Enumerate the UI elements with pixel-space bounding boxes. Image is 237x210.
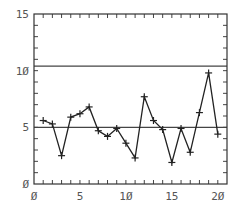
plus-marker-icon: [58, 152, 65, 159]
x-tick-label: 2Ø: [211, 190, 225, 203]
plus-marker-icon: [67, 114, 74, 121]
plus-marker-icon: [168, 159, 175, 166]
plus-marker-icon: [122, 140, 129, 147]
x-tick-label: 1Ø: [119, 190, 133, 203]
x-tick-label: 15: [165, 190, 178, 203]
plot-frame: [34, 14, 227, 184]
plus-marker-icon: [205, 69, 212, 76]
plus-marker-icon: [196, 109, 203, 116]
plus-marker-icon: [40, 117, 47, 124]
plus-marker-icon: [49, 120, 56, 127]
plus-marker-icon: [95, 127, 102, 134]
plus-marker-icon: [214, 131, 221, 138]
plus-marker-icon: [141, 93, 148, 100]
x-tick-label: Ø: [31, 190, 38, 203]
y-tick-label: Ø: [22, 178, 29, 191]
data-series: [40, 69, 222, 166]
y-tick-label: 1Ø: [16, 65, 30, 78]
axis-tick-labels: Ø51Ø152ØØ51Ø15: [16, 8, 225, 203]
axis-ticks: [34, 14, 227, 184]
plus-marker-icon: [178, 125, 185, 132]
plus-marker-icon: [187, 149, 194, 156]
x-tick-label: 5: [77, 190, 84, 203]
y-tick-label: 15: [16, 8, 29, 21]
y-tick-label: 5: [22, 121, 29, 134]
line-chart: Ø51Ø152ØØ51Ø15: [0, 0, 237, 210]
plus-marker-icon: [132, 154, 139, 161]
